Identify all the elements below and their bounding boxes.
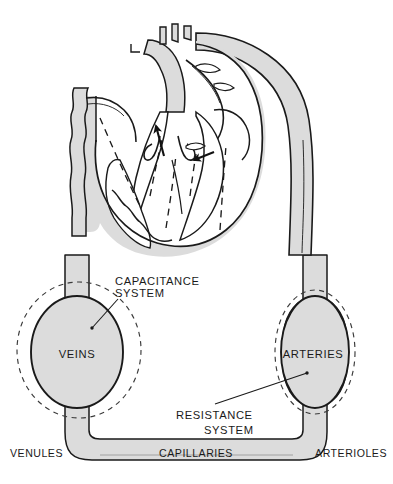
leader-dot-capacitance xyxy=(90,326,93,329)
label-venules: VENULES xyxy=(10,447,63,459)
label-capacitance-system-line1: CAPACITANCE xyxy=(115,275,200,287)
label-capacitance-system-line2: SYSTEM xyxy=(115,287,165,299)
circulatory-diagram: CAPACITANCE SYSTEM RESISTANCE SYSTEM VEI… xyxy=(0,0,393,484)
leader-dot-resistance xyxy=(305,371,308,374)
label-arterioles: ARTERIOLES xyxy=(315,447,387,459)
label-resistance-system-line2: SYSTEM xyxy=(204,424,254,436)
subclavian-branch xyxy=(184,26,191,40)
brachiocephalic-branch xyxy=(160,27,166,44)
label-capillaries: CAPILLARIES xyxy=(159,447,233,459)
carotid-branch xyxy=(172,24,178,42)
label-arteries: ARTERIES xyxy=(283,348,344,360)
label-veins: VEINS xyxy=(59,348,96,360)
label-resistance-system-line1: RESISTANCE xyxy=(176,409,253,421)
diagram-canvas: CAPACITANCE SYSTEM RESISTANCE SYSTEM VEI… xyxy=(0,0,393,484)
superior-vena-cava xyxy=(70,88,88,236)
